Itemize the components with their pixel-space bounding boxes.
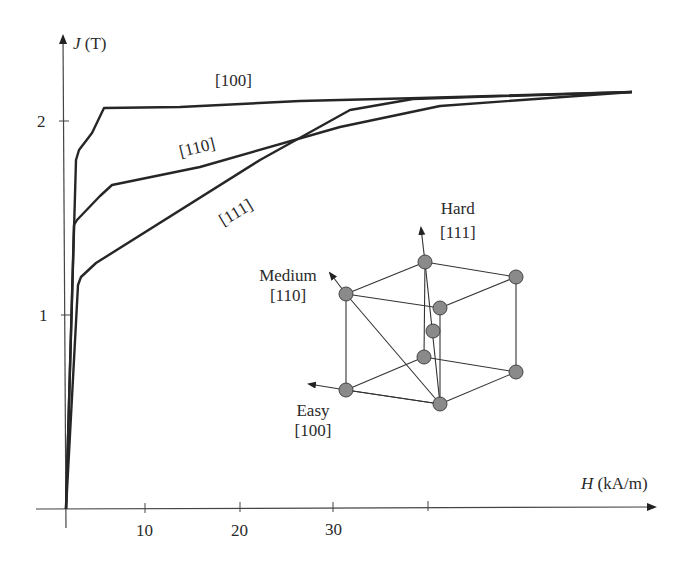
atom xyxy=(418,255,432,269)
y-axis-unit: (T) xyxy=(85,34,107,53)
inset-hard-label: Hard [111] xyxy=(440,200,476,241)
x-tick-20: 20 xyxy=(231,522,248,539)
hard-name: Hard xyxy=(440,200,476,217)
y-axis-var: J xyxy=(73,34,81,53)
x-tick-10: 10 xyxy=(136,522,153,539)
atom xyxy=(417,350,431,364)
easy-dir: [100] xyxy=(288,422,338,439)
inset-easy-label: Easy [100] xyxy=(288,402,338,439)
y-axis-label: J (T) xyxy=(73,35,107,52)
y-tick-1: 1 xyxy=(39,307,48,324)
hard-dir: [111] xyxy=(440,224,476,241)
x-axis-var: H xyxy=(581,474,593,493)
atoms xyxy=(339,255,523,411)
x-axis xyxy=(36,501,655,513)
x-axis-label: H (kA/m) xyxy=(581,475,648,492)
inset-medium-label: Medium [110] xyxy=(248,267,328,304)
medium-dir: [110] xyxy=(248,287,328,304)
atom xyxy=(509,365,523,379)
atom xyxy=(433,301,447,315)
curve-label-100: [100] xyxy=(215,72,252,89)
medium-name: Medium xyxy=(248,267,328,284)
x-tick-30: 30 xyxy=(325,521,342,538)
atom xyxy=(339,287,353,301)
atom xyxy=(339,383,353,397)
atom xyxy=(433,397,447,411)
cubic-lattice-inset xyxy=(309,228,516,404)
y-tick-2: 2 xyxy=(37,113,46,130)
x-axis-unit: (kA/m) xyxy=(598,474,648,493)
atom-center xyxy=(426,324,440,338)
easy-name: Easy xyxy=(288,402,338,419)
atom xyxy=(509,270,523,284)
